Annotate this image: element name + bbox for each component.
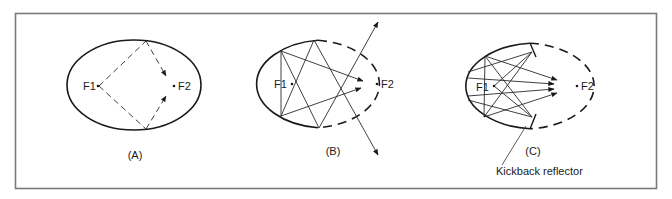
focus-dot-a-f2 (173, 85, 176, 88)
annotation-leader-line (502, 126, 526, 165)
panel-c: F1 F2 (C) Kickback reflector (466, 43, 594, 177)
ray-a-f1-top (99, 41, 146, 86)
focus-dot-c-f2 (576, 85, 579, 88)
ray-c-8 (485, 56, 557, 80)
focus-label-b-f2: F2 (381, 78, 394, 90)
kickback-reflector-label: Kickback reflector (496, 165, 583, 177)
panel-a: F1 F2 (A) (67, 40, 201, 161)
ellipse-reflector-diagram: F1 F2 (A) F1 F2 (B) (0, 0, 672, 199)
ray-a-bottom-f2 (146, 96, 166, 129)
focus-label-a-f2: F2 (178, 80, 191, 92)
panel-b: F1 F2 (B) (257, 22, 394, 157)
ray-c-11 (484, 93, 557, 117)
panel-caption-c: (C) (525, 145, 540, 157)
ray-c-5 (468, 100, 532, 117)
ray-a-f1-bottom (99, 86, 146, 129)
focus-dot-a-f1 (97, 85, 100, 88)
focus-label-b-f1: F1 (274, 78, 287, 90)
focus-label-c-f2: F2 (581, 80, 594, 92)
focus-label-c-f1: F1 (476, 81, 489, 93)
ellipse-b-dashed-half (318, 40, 379, 127)
focus-label-a-f1: F1 (83, 80, 96, 92)
reflector-end-top (530, 43, 536, 57)
ray-b-escape-up (319, 22, 378, 128)
ray-b-escape-down (314, 40, 378, 155)
focus-dot-b-f1 (291, 83, 294, 86)
panel-caption-b: (B) (326, 145, 341, 157)
figure-frame (16, 14, 657, 189)
focus-dot-c-f1 (493, 85, 496, 88)
focus-dot-b-f2 (376, 83, 379, 86)
ray-a-top-f2 (146, 41, 166, 76)
ray-c-2 (485, 56, 532, 117)
panel-caption-a: (A) (128, 149, 143, 161)
